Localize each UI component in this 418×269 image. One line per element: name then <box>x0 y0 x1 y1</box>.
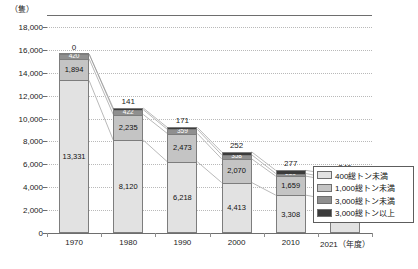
legend-item: 400総トン未満 <box>317 169 410 182</box>
y-tick-label-2000: 2,000 <box>23 206 43 215</box>
bar-2000: 4,4132,070358252 <box>222 152 252 233</box>
legend-label-1000: 1,000総トン未満 <box>335 182 395 193</box>
legend-item: 3,000総トン未満 <box>317 194 410 207</box>
legend-label-3000-over: 3,000総トン以上 <box>335 207 395 218</box>
bar-segment-1990-3 <box>167 127 197 129</box>
x-tick-label-2021: 2021（年度） <box>320 238 370 249</box>
legend-item: 3,000総トン以上 <box>317 207 410 220</box>
x-tickmark-4 <box>264 233 265 237</box>
bar-segment-1970-3 <box>59 53 89 54</box>
legend-label-3000-under: 3,000総トン未満 <box>335 195 395 206</box>
chart-top-rule <box>47 15 372 16</box>
bar-segment-2010-3 <box>276 170 306 173</box>
x-tickmark-2 <box>155 233 156 237</box>
y-tickmark-18000 <box>43 27 47 28</box>
x-tickmark-5 <box>318 233 319 237</box>
x-tickmark-1 <box>101 233 102 237</box>
x-tickmark-3 <box>210 233 211 237</box>
x-tick-label-1980: 1980 <box>119 238 137 247</box>
legend-swatch-3000-under <box>317 196 332 204</box>
x-tick-label-2000: 2000 <box>228 238 246 247</box>
bar-segment-1980-3 <box>113 108 143 110</box>
bar-1970: 13,3311,8944200 <box>59 54 89 233</box>
stacked-bar-chart: （隻） 02,0004,0006,0008,00010,00012,00014,… <box>0 0 418 269</box>
bar-1990: 6,2182,473359171 <box>167 127 197 233</box>
chart-legend: 400総トン未満 1,000総トン未満 3,000総トン未満 3,000総トン以… <box>313 166 414 223</box>
y-tick-label-8000: 8,000 <box>23 137 43 146</box>
x-tickmark-end <box>372 233 373 237</box>
y-tickmark-4000 <box>43 187 47 188</box>
y-tick-label-18000: 18,000 <box>19 23 43 32</box>
y-tickmark-16000 <box>43 50 47 51</box>
gridline-8000 <box>47 141 372 142</box>
segment-label-1970-3: 0 <box>59 43 89 52</box>
segment-label-1980-0: 8,120 <box>113 183 143 191</box>
x-tick-label-1970: 1970 <box>65 238 83 247</box>
y-tick-label-6000: 6,000 <box>23 160 43 169</box>
segment-label-1980-1: 2,235 <box>113 124 143 132</box>
segment-label-2010-0: 3,308 <box>276 211 306 219</box>
y-axis-unit-label: （隻） <box>10 3 34 14</box>
segment-label-2010-3: 277 <box>276 159 306 168</box>
segment-label-2000-3: 252 <box>222 141 252 150</box>
y-tick-label-10000: 10,000 <box>19 114 43 123</box>
gridline-18000 <box>47 27 372 28</box>
segment-label-2000-0: 4,413 <box>222 204 252 212</box>
legend-item: 1,000総トン未満 <box>317 182 410 195</box>
y-tickmark-6000 <box>43 164 47 165</box>
bar-segment-2000-3 <box>222 152 252 155</box>
y-tickmark-2000 <box>43 210 47 211</box>
bar-1980: 8,1202,235422141 <box>113 108 143 233</box>
segment-label-1980-3: 141 <box>113 97 143 106</box>
gridline-12000 <box>47 96 372 97</box>
legend-swatch-3000-over <box>317 209 332 217</box>
y-tickmark-12000 <box>43 96 47 97</box>
segment-label-2010-1: 1,659 <box>276 182 306 190</box>
segment-label-2000-1: 2,070 <box>222 167 252 175</box>
segment-label-1990-1: 2,473 <box>167 144 197 152</box>
y-tick-label-4000: 4,000 <box>23 183 43 192</box>
gridline-10000 <box>47 119 372 120</box>
legend-swatch-400 <box>317 171 332 179</box>
x-tickmark-0 <box>47 233 48 237</box>
y-tick-label-0: 0 <box>39 229 43 238</box>
segment-label-1970-1: 1,894 <box>59 66 89 74</box>
gridline-14000 <box>47 73 372 74</box>
legend-swatch-1000 <box>317 184 332 192</box>
y-tick-label-12000: 12,000 <box>19 91 43 100</box>
legend-label-400: 400総トン未満 <box>335 170 388 181</box>
segment-label-1990-3: 171 <box>167 116 197 125</box>
segment-label-1990-0: 6,218 <box>167 194 197 202</box>
y-tickmark-10000 <box>43 119 47 120</box>
gridline-16000 <box>47 50 372 51</box>
segment-label-1970-0: 13,331 <box>59 153 89 161</box>
y-tickmark-14000 <box>43 73 47 74</box>
x-tick-label-2010: 2010 <box>282 238 300 247</box>
y-tickmark-8000 <box>43 141 47 142</box>
x-tick-label-1990: 1990 <box>174 238 192 247</box>
y-tick-label-16000: 16,000 <box>19 45 43 54</box>
y-tick-label-14000: 14,000 <box>19 68 43 77</box>
bar-2010: 3,3081,659229277 <box>276 170 306 233</box>
